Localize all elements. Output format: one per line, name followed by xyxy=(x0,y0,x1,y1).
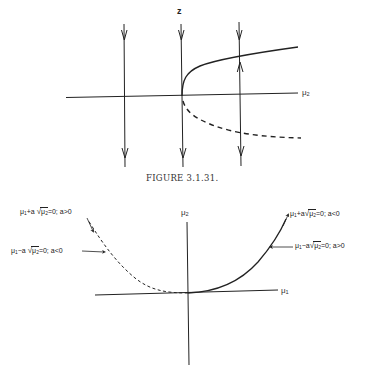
pointer-arrow-top-left xyxy=(87,218,93,231)
operator: −a xyxy=(302,242,310,249)
operator: +a xyxy=(297,210,305,217)
radicand: μ2 xyxy=(31,246,39,254)
mu1-horizontal-axis-label: μ1 xyxy=(281,286,289,295)
annotation-top-right: μ1+a√μ2=0; a<0 xyxy=(290,209,340,218)
pointer-arrow-top-right xyxy=(283,215,288,226)
radicand: μ2 xyxy=(308,209,316,217)
annotation-mid-left: μ1−a √μ2=0; a<0 xyxy=(11,246,63,255)
radicand: μ2 xyxy=(313,241,321,249)
operator: −a xyxy=(18,247,28,254)
radicand: μ2 xyxy=(40,207,48,215)
right-branch-curve xyxy=(188,219,286,293)
subscript: 2 xyxy=(307,91,310,97)
unstable-branch-curve xyxy=(183,101,301,138)
diagram-canvas xyxy=(0,0,372,375)
figure-caption: FIGURE 3.1.31. xyxy=(146,173,218,183)
condition: =0; a<0 xyxy=(39,247,63,254)
top-figure xyxy=(66,22,301,167)
left-branch-curve xyxy=(88,220,188,293)
operator: +a xyxy=(27,208,37,215)
bottom-figure xyxy=(82,215,293,365)
mu2-vertical-axis-label: μ2 xyxy=(181,208,189,217)
subscript: 1 xyxy=(286,289,289,295)
annotation-mid-right: μ1−a√μ2=0; a>0 xyxy=(295,241,345,250)
condition: =0; a>0 xyxy=(321,242,345,249)
condition: =0; a<0 xyxy=(316,210,340,217)
flow-line-left xyxy=(124,24,125,167)
z-axis-label: z xyxy=(177,6,182,16)
mu2-axis-label: μ2 xyxy=(302,88,310,97)
pointer-arrow-mid-left xyxy=(82,251,104,252)
subscript: 2 xyxy=(186,211,189,217)
condition: =0; a>0 xyxy=(48,208,72,215)
annotation-top-left: μ1+a √μ2=0; a>0 xyxy=(20,207,72,216)
